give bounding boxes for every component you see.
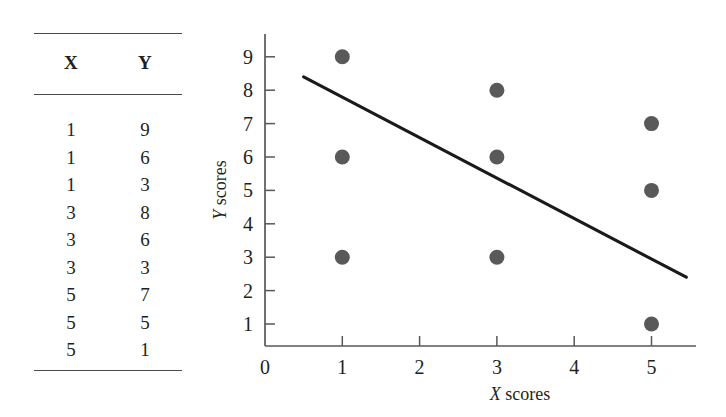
cell-y: 3: [108, 171, 182, 199]
scatter-plot: 123456789 012345 X scores Y scores: [196, 0, 726, 417]
y-tick-label-6: 6: [243, 146, 253, 168]
cell-x: 5: [34, 309, 108, 337]
regression-line: [304, 77, 687, 277]
table-row: 5 7: [34, 281, 182, 309]
cell-y: 5: [108, 309, 182, 337]
y-axis-title: Y scores: [210, 160, 230, 220]
x-tick-label-3: 3: [492, 356, 502, 378]
table-row: 5 5: [34, 309, 182, 337]
table-header-x: X: [34, 52, 108, 74]
cell-y: 1: [108, 336, 182, 364]
data-table: X Y 1 9 1 6 1 3 3 8 3 6: [34, 28, 182, 376]
cell-x: 3: [34, 226, 108, 254]
table-header-row: X Y: [34, 52, 182, 74]
cell-x: 3: [34, 254, 108, 282]
data-point: [489, 150, 504, 165]
y-tick-label-9: 9: [243, 46, 253, 68]
table-row: 1 6: [34, 144, 182, 172]
table-row: 5 1: [34, 336, 182, 364]
table-body: 1 9 1 6 1 3 3 8 3 6 3 3: [34, 116, 182, 364]
scatter-plot-svg: 123456789 012345 X scores Y scores: [196, 0, 726, 417]
y-tick-label-4: 4: [243, 213, 253, 235]
x-tick-label-5: 5: [647, 356, 657, 378]
cell-y: 8: [108, 199, 182, 227]
cell-x: 1: [34, 144, 108, 172]
cell-y: 6: [108, 226, 182, 254]
x-tick-label-2: 2: [415, 356, 425, 378]
table-row: 3 3: [34, 254, 182, 282]
y-tick-label-8: 8: [243, 79, 253, 101]
data-point: [644, 183, 659, 198]
table-row: 1 9: [34, 116, 182, 144]
data-point: [489, 83, 504, 98]
cell-x: 1: [34, 171, 108, 199]
table-row: 3 6: [34, 226, 182, 254]
data-point: [335, 250, 350, 265]
table-rule-top: [34, 33, 182, 34]
y-tick-label-1: 1: [243, 313, 253, 335]
x-axis-title: X scores: [489, 384, 550, 404]
data-point: [335, 49, 350, 64]
data-point: [644, 317, 659, 332]
y-tick-label-2: 2: [243, 280, 253, 302]
cell-x: 5: [34, 281, 108, 309]
x-tick-label-1: 1: [337, 356, 347, 378]
figure-scatter-with-data-table: X Y 1 9 1 6 1 3 3 8 3 6: [0, 0, 726, 417]
table-row: 1 3: [34, 171, 182, 199]
data-points: [335, 49, 659, 331]
y-tick-label-5: 5: [243, 179, 253, 201]
y-axis-ticks: [265, 57, 275, 324]
table-row: 3 8: [34, 199, 182, 227]
x-tick-label-4: 4: [569, 356, 579, 378]
y-axis-tick-labels: 123456789: [243, 46, 253, 335]
table-header-y: Y: [108, 52, 182, 74]
cell-x: 5: [34, 336, 108, 364]
x-tick-label-0: 0: [260, 356, 270, 378]
cell-y: 9: [108, 116, 182, 144]
cell-y: 6: [108, 144, 182, 172]
x-axis-ticks: [342, 336, 651, 346]
cell-y: 3: [108, 254, 182, 282]
y-tick-label-7: 7: [243, 113, 253, 135]
data-point: [644, 116, 659, 131]
y-tick-label-3: 3: [243, 246, 253, 268]
cell-x: 3: [34, 199, 108, 227]
table-rule-middle: [34, 94, 182, 95]
table-rule-bottom: [34, 370, 182, 371]
cell-x: 1: [34, 116, 108, 144]
cell-y: 7: [108, 281, 182, 309]
data-point: [335, 150, 350, 165]
data-point: [489, 250, 504, 265]
x-axis-tick-labels: 012345: [260, 356, 657, 378]
